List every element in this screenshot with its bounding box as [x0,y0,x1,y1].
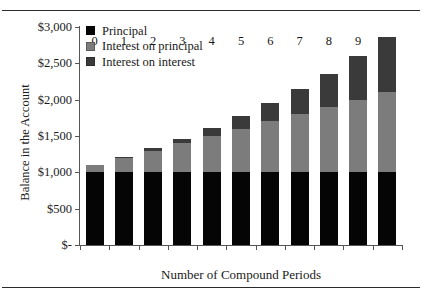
bar-segment-interest-on-principal[interactable] [320,107,338,172]
figure-container: Balance in the Account $-$500$1,000$1,50… [0,0,424,299]
bar-segment-interest-on-interest[interactable] [203,128,221,136]
bar-stack[interactable] [291,89,309,245]
legend-item-label: Interest on principal [102,40,203,53]
y-axis-tick-label: $1,000 [38,166,72,179]
top-divider-rule [2,10,420,11]
bar-segment-principal[interactable] [115,172,133,245]
bar-segment-principal[interactable] [173,172,191,245]
bar-segment-interest-on-principal[interactable] [115,158,133,173]
legend-item[interactable]: Principal [86,23,203,39]
bar-segment-interest-on-interest[interactable] [320,74,338,107]
bar-segment-principal[interactable] [320,172,338,245]
bar-segment-interest-on-principal[interactable] [291,114,309,172]
y-axis-tick-label: $- [62,239,72,252]
x-axis-tick-label: 4 [209,35,215,48]
y-axis-tick-label: $3,000 [38,21,72,34]
bar-segment-principal[interactable] [86,172,104,245]
legend-swatch-interest-on-interest-icon [86,57,95,66]
x-axis-tick [256,245,257,250]
bottom-divider-rule [2,287,420,288]
x-axis-tick [285,245,286,250]
y-axis-tick [75,209,80,210]
y-axis-tick-label: $2,000 [38,93,72,106]
y-axis-title: Balance in the Account [18,52,32,232]
x-axis-tick [226,245,227,250]
bar-stack[interactable] [261,103,279,245]
bar-segment-interest-on-interest[interactable] [261,103,279,121]
bar-segment-principal[interactable] [232,172,250,245]
bar-segment-interest-on-principal[interactable] [232,129,250,173]
x-axis-tick [109,245,110,250]
bar-segment-interest-on-interest[interactable] [349,56,367,99]
bar-segment-principal[interactable] [144,172,162,245]
y-axis-tick [75,63,80,64]
legend-swatch-interest-on-principal-icon [86,42,95,51]
y-axis-tick [75,136,80,137]
bar-stack[interactable] [378,37,396,245]
x-axis-tick-label: 6 [267,35,273,48]
x-axis-tick-label: 8 [326,35,332,48]
bar-segment-principal[interactable] [203,172,221,245]
x-axis-tick-label: 5 [238,35,244,48]
bar-segment-interest-on-interest[interactable] [291,89,309,114]
x-axis-tick [373,245,374,250]
bar-stack[interactable] [173,139,191,245]
x-axis-tick-label: 9 [355,35,361,48]
legend-item[interactable]: Interest on principal [86,39,203,55]
y-axis-tick-label: $2,500 [38,57,72,70]
bar-segment-principal[interactable] [349,172,367,245]
bar-segment-interest-on-principal[interactable] [349,100,367,173]
x-axis-tick [168,245,169,250]
x-axis-tick-label: 7 [296,35,302,48]
y-axis-tick [75,172,80,173]
x-axis-tick [402,245,403,250]
legend-swatch-principal-icon [86,26,95,35]
bar-segment-interest-on-principal[interactable] [144,151,162,173]
x-axis-tick [314,245,315,250]
bar-segment-principal[interactable] [291,172,309,245]
bar-stack[interactable] [86,165,104,245]
legend-item[interactable]: Interest on interest [86,54,203,70]
bar-segment-principal[interactable] [261,172,279,245]
y-axis-tick-label: $500 [47,202,72,215]
bar-stack[interactable] [203,128,221,245]
x-axis-tick [139,245,140,250]
legend-item-label: Principal [102,25,147,38]
y-axis-tick [75,100,80,101]
bar-segment-interest-on-principal[interactable] [86,165,104,172]
legend-item-label: Interest on interest [102,56,195,69]
x-axis-line [79,245,403,246]
y-axis-title-label: Balance in the Account [18,84,33,200]
bar-stack[interactable] [144,148,162,245]
bar-segment-interest-on-interest[interactable] [232,116,250,128]
bar-segment-interest-on-principal[interactable] [203,136,221,172]
bar-segment-principal[interactable] [378,172,396,245]
bar-stack[interactable] [320,74,338,245]
x-axis-tick [197,245,198,250]
x-axis-title: Number of Compound Periods [80,267,402,283]
y-axis-tick-label: $1,500 [38,130,72,143]
bar-stack[interactable] [232,116,250,245]
bar-segment-interest-on-principal[interactable] [378,92,396,172]
x-axis-tick [343,245,344,250]
bar-segment-interest-on-principal[interactable] [173,143,191,172]
bar-segment-interest-on-interest[interactable] [378,37,396,92]
bar-stack[interactable] [115,157,133,245]
bar-stack[interactable] [349,56,367,245]
x-axis-tick [80,245,81,250]
chart-legend: PrincipalInterest on principalInterest o… [86,23,203,70]
y-axis-tick [75,27,80,28]
bar-segment-interest-on-principal[interactable] [261,121,279,172]
